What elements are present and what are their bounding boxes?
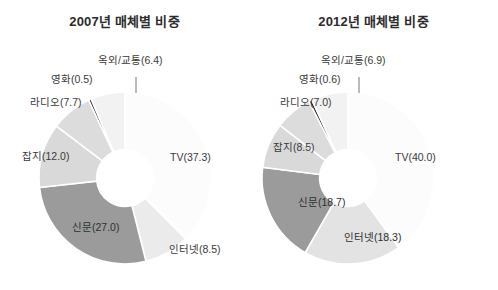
slice-label-internet-2012: 인터넷(18.3) <box>344 232 401 243</box>
donut-slices-2007 <box>39 92 211 264</box>
slice-label-movie-2012: 영화(0.6) <box>299 74 341 85</box>
slice-label-tv-2007: TV(37.3) <box>170 152 211 163</box>
slice-label-movie-2007: 영화(0.5) <box>51 74 93 85</box>
slice-label-outdoor-2007: 옥외/교통(6.4) <box>98 55 163 66</box>
slice-label-outdoor-2012: 옥외/교통(6.9) <box>321 55 386 66</box>
slice-label-newspaper-2012: 신문(18.7) <box>298 197 345 208</box>
chart-panel-2012: 2012년 매체별 비중 TV(40.0) 인터넷(18.3) 신문(18.7)… <box>249 0 498 290</box>
slice-label-radio-2007: 라디오(7.7) <box>30 97 82 108</box>
donut-chart-2012: TV(40.0) 인터넷(18.3) 신문(18.7) 잡지(8.5) 라디오(… <box>249 0 498 290</box>
slice-label-magazine-2007: 잡지(12.0) <box>22 151 69 162</box>
slice-label-newspaper-2007: 신문(27.0) <box>72 222 119 233</box>
donut-chart-2007: TV(37.3) 인터넷(8.5) 신문(27.0) 잡지(12.0) 라디오(… <box>0 0 249 290</box>
slice-label-magazine-2012: 잡지(8.5) <box>273 142 315 153</box>
slice-label-radio-2012: 라디오(7.0) <box>280 97 332 108</box>
media-share-donut-figure: 2007년 매체별 비중 TV(37.3) 인터넷(8.5) 신문(27.0) … <box>0 0 498 290</box>
chart-panel-2007: 2007년 매체별 비중 TV(37.3) 인터넷(8.5) 신문(27.0) … <box>0 0 249 290</box>
slice-label-tv-2012: TV(40.0) <box>395 152 436 163</box>
slice-label-internet-2007: 인터넷(8.5) <box>169 244 221 255</box>
